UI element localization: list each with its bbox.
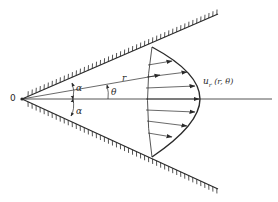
origin-label: 0	[10, 94, 16, 103]
upper-wall	[22, 10, 218, 99]
velocity-args: (r, θ)	[212, 77, 234, 86]
velocity-profile-arc	[152, 47, 200, 157]
alpha-upper-arc	[72, 83, 74, 99]
wedge-flow-diagram	[0, 0, 278, 202]
radius-ray	[22, 75, 160, 99]
velocity-label: ur (r, θ)	[203, 77, 233, 88]
velocity-arrow	[146, 86, 195, 88]
velocity-arrow	[148, 61, 172, 65]
lower-wall	[22, 99, 218, 193]
velocity-arrow	[148, 133, 172, 137]
radius-label: r	[122, 74, 126, 83]
theta-arc	[107, 85, 108, 99]
alpha-lower-arc	[71, 99, 74, 116]
velocity-arrow	[146, 110, 195, 112]
reference-arc	[148, 47, 153, 157]
alpha-upper-label: α	[76, 84, 82, 93]
velocity-arrow	[147, 121, 187, 126]
theta-label: θ	[111, 88, 116, 97]
velocity-arrow	[147, 72, 187, 77]
upper-wall-hatching	[28, 10, 217, 97]
velocity-arrows	[146, 61, 199, 137]
origin-point	[20, 97, 23, 100]
alpha-lower-label: α	[76, 107, 82, 116]
lower-wall-hatching	[28, 102, 217, 194]
